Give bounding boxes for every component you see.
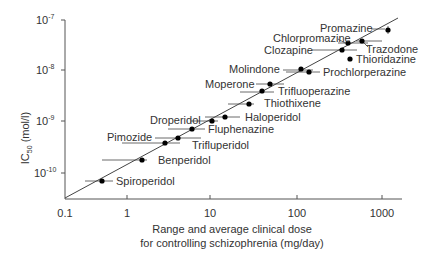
label-thioridazine: Thioridazine bbox=[356, 53, 416, 65]
x-tick-labels: 0.1 1 10 100 1000 bbox=[57, 207, 394, 219]
label-haloperidol: Haloperidol bbox=[245, 111, 301, 123]
svg-text:10-7: 10-7 bbox=[36, 13, 55, 26]
point-thioridazine bbox=[347, 56, 352, 61]
svg-text:10-10: 10-10 bbox=[34, 166, 56, 179]
svg-text:1: 1 bbox=[124, 207, 130, 219]
point-thiothixene bbox=[246, 101, 251, 106]
point-trazodone bbox=[359, 38, 364, 43]
point-haloperidol bbox=[222, 114, 227, 119]
label-trifluoperazine: Trifluoperazine bbox=[278, 85, 350, 97]
point-prochlorperazine bbox=[306, 69, 311, 74]
label-droperidol: Droperidol bbox=[150, 114, 201, 126]
y-axis-label: IC50 (mol/l) bbox=[19, 112, 33, 164]
point-moperone bbox=[267, 81, 272, 86]
label-benperidol: Benperidol bbox=[158, 154, 211, 166]
point-fluphenazine bbox=[189, 126, 194, 131]
data-markers bbox=[99, 27, 390, 183]
point-promazine bbox=[385, 27, 390, 32]
ic50-vs-clinical-dose-chart: 10-7 10-8 10-9 10-10 IC50 (mol/l) 0.1 1 … bbox=[0, 0, 431, 261]
label-pimozide: Pimozide bbox=[107, 131, 152, 143]
label-fluphenazine: Fluphenazine bbox=[208, 123, 274, 135]
point-spiroperidol bbox=[99, 178, 104, 183]
label-prochlorperazine: Prochlorperazine bbox=[323, 66, 406, 78]
label-molindone: Molindone bbox=[229, 63, 280, 75]
svg-text:100: 100 bbox=[288, 207, 306, 219]
label-promazine: Promazine bbox=[320, 22, 373, 34]
label-spiroperidol: Spiroperidol bbox=[116, 175, 175, 187]
svg-text:10-8: 10-8 bbox=[36, 63, 55, 76]
point-molindone bbox=[298, 66, 303, 71]
svg-text:for controlling schizophrenia: for controlling schizophrenia (mg/day) bbox=[140, 237, 323, 249]
label-thiothixene: Thiothixene bbox=[264, 97, 321, 109]
svg-text:10-9: 10-9 bbox=[36, 114, 55, 127]
point-benperidol bbox=[139, 157, 144, 162]
label-trifluperidol: Trifluperidol bbox=[192, 139, 249, 151]
svg-text:1000: 1000 bbox=[370, 207, 394, 219]
label-moperone: Moperone bbox=[205, 78, 255, 90]
point-clozapine bbox=[339, 47, 344, 52]
svg-text:0.1: 0.1 bbox=[57, 207, 72, 219]
point-trifluoperazine bbox=[259, 88, 264, 93]
svg-text:Range and average clinical dos: Range and average clinical dose bbox=[152, 223, 312, 235]
drug-labels: Spiroperidol Benperidol Trifluperidol Pi… bbox=[107, 22, 418, 187]
label-clozapine: Clozapine bbox=[264, 44, 313, 56]
point-pimozide bbox=[175, 135, 180, 140]
y-tick-labels: 10-7 10-8 10-9 10-10 bbox=[34, 13, 56, 179]
svg-text:10: 10 bbox=[204, 207, 216, 219]
x-axis-label: Range and average clinical dose for cont… bbox=[140, 223, 323, 249]
point-trifluperidol bbox=[162, 140, 167, 145]
